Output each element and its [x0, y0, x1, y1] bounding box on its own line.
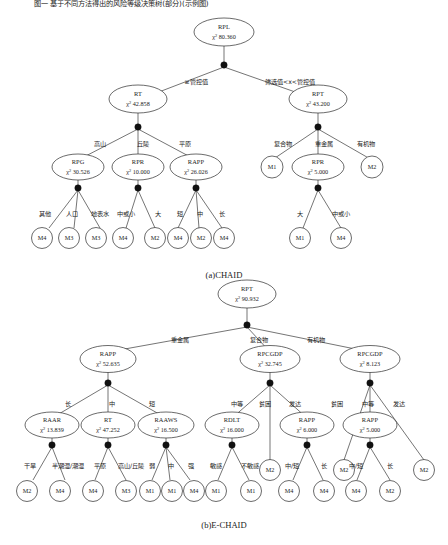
leaf-b-l5-label: M1 — [146, 487, 155, 494]
node-b-m2-c[interactable]: M2 — [414, 460, 435, 481]
leaf-b-l5[interactable]: M1 — [140, 481, 161, 502]
split-dot-b-rapp2[interactable] — [304, 442, 310, 448]
leaf-b-l10-label: M4 — [285, 487, 294, 494]
leaf-b-l7-label: M4 — [190, 487, 199, 494]
node-a-rpt[interactable]: RPT χ2 43.200 — [289, 85, 347, 113]
leaf-a-l2[interactable]: M3 — [59, 228, 80, 249]
node-b-raar[interactable]: RAAR χ2 13.839 — [25, 412, 79, 438]
leaf-a-l1[interactable]: M4 — [32, 228, 53, 249]
leaf-b-l6[interactable]: M1 — [162, 481, 183, 502]
split-dot-a-rapp[interactable] — [193, 185, 199, 191]
node-a-m2-right[interactable]: M2 — [361, 156, 383, 178]
node-a-m1-right[interactable]: M1 — [261, 156, 283, 178]
leaf-a-l9[interactable]: M1 — [290, 228, 311, 249]
leaf-a-l7[interactable]: M2 — [191, 228, 212, 249]
split-dot-a-rpg[interactable] — [75, 185, 81, 191]
leaf-b-l3[interactable]: M4 — [83, 481, 104, 502]
leaf-b-l3-label: M4 — [89, 487, 98, 494]
edge-label-b-e7: 干旱 — [24, 462, 36, 470]
leaf-b-l1[interactable]: M2 — [17, 481, 38, 502]
split-dot-b-rdlt[interactable] — [229, 442, 235, 448]
edge-label-a-e17: 大 — [297, 210, 303, 218]
node-a-rpt-label: RPT — [312, 90, 324, 97]
edge-label-a-e1: ≥管控值 — [184, 78, 207, 86]
split-dot-b-rt[interactable] — [105, 442, 111, 448]
leaf-b-l13[interactable]: M2 — [380, 481, 401, 502]
split-dot-b-rapp[interactable] — [105, 380, 111, 386]
split-dot-a-rpt[interactable] — [315, 124, 321, 130]
node-a-rt[interactable]: RT χ2 42.858 — [109, 85, 167, 113]
node-b-rapp3-label: RAPP — [362, 416, 379, 423]
leaf-b-l9[interactable]: M1 — [241, 481, 262, 502]
leaf-a-l6-label: M4 — [174, 234, 183, 241]
edge-label-a-e8: 地表水 — [91, 210, 110, 218]
decision-tree-figure: 图一 基于不同方法得出的风险等级决策树(部分)(示例图) — [0, 0, 448, 545]
split-dot-b-rpcgdp2[interactable] — [367, 380, 373, 386]
node-a-rapp-label: RAPP — [188, 158, 205, 165]
leaf-a-l7-label: M2 — [197, 234, 206, 241]
node-b-rpt[interactable]: RPT χ2 90.932 — [218, 280, 276, 308]
split-dot-b-rpcgdp1[interactable] — [267, 380, 273, 386]
node-a-m2-right-label: M2 — [368, 163, 377, 170]
node-b-rapp[interactable]: RAPP χ2 52.635 — [80, 346, 136, 373]
node-b-rdlt-label: RDLT — [224, 416, 241, 423]
node-a-rapp[interactable]: RAPP χ2 26.026 — [170, 154, 222, 180]
edge-label-b-e19: 中/短 — [285, 462, 299, 470]
leaf-a-l10-label: M4 — [337, 234, 346, 241]
node-a-rpr2[interactable]: RPR χ2 5.000 — [292, 154, 344, 180]
leaf-b-l4[interactable]: M3 — [116, 481, 137, 502]
node-b-rpcgdp1[interactable]: RPCGDP χ2 32.745 — [240, 346, 300, 373]
node-a-rpl[interactable]: RPL χ2 80.360 — [194, 18, 254, 46]
split-dot-a-rt[interactable] — [135, 124, 141, 130]
leaf-a-l10[interactable]: M4 — [331, 228, 352, 249]
leaf-a-l4[interactable]: M4 — [113, 228, 134, 249]
leaf-b-l8[interactable]: M1 — [206, 481, 227, 502]
split-dot-b-raaws[interactable] — [163, 442, 169, 448]
node-b-raaws[interactable]: RAAWS χ2 16.500 — [138, 412, 194, 438]
split-dot-b-raar[interactable] — [49, 442, 55, 448]
leaf-a-l5[interactable]: M2 — [145, 228, 166, 249]
leaf-b-l12[interactable]: M4 — [346, 481, 367, 502]
edge-label-b-e8: 半潮湿/潮湿 — [52, 462, 84, 470]
node-b-rt-label: RT — [104, 416, 112, 423]
edge-label-b-e22: 中等 — [362, 400, 374, 408]
tree-a-edges — [49, 46, 372, 228]
leaf-a-l8[interactable]: M4 — [214, 228, 235, 249]
leaf-b-l12-label: M4 — [352, 487, 361, 494]
leaf-a-l4-label: M4 — [119, 234, 128, 241]
node-b-rapp2[interactable]: RAPP χ2 6.000 — [280, 412, 334, 438]
split-dot-a-rpr2[interactable] — [315, 185, 321, 191]
edge-label-a-e6: 其他 — [39, 210, 51, 218]
edge-label-a-e7: 人口 — [66, 210, 78, 218]
split-dot-a-root[interactable] — [221, 62, 227, 68]
leaf-b-l11[interactable]: M4 — [314, 481, 335, 502]
leaf-b-l10[interactable]: M4 — [279, 481, 300, 502]
split-dot-a-rpr[interactable] — [135, 185, 141, 191]
edge-label-b-e4: 长 — [65, 400, 71, 408]
node-b-raar-label: RAAR — [43, 416, 62, 423]
leaf-a-l2-label: M3 — [65, 234, 74, 241]
leaf-a-l6[interactable]: M4 — [168, 228, 189, 249]
node-b-rapp3[interactable]: RAPP χ2 5.000 — [343, 412, 397, 438]
split-dot-b-rapp3[interactable] — [367, 442, 373, 448]
node-b-rdlt[interactable]: RDLT χ2 16.000 — [205, 412, 259, 438]
split-dot-b-root[interactable] — [244, 322, 250, 328]
edge-label-b-e6: 短 — [149, 400, 155, 408]
node-b-m2-a[interactable]: M2 — [260, 460, 281, 481]
leaf-b-l2[interactable]: M4 — [50, 481, 71, 502]
leaf-a-l3[interactable]: M3 — [86, 228, 107, 249]
edge-label-b-e13: 强 — [188, 462, 194, 470]
leaf-b-l7[interactable]: M4 — [184, 481, 205, 502]
node-b-m2-c-label: M2 — [420, 466, 429, 473]
figure-container: 图一 基于不同方法得出的风险等级决策树(部分)(示例图) — [0, 0, 448, 545]
node-b-rpcgdp2[interactable]: RPCGDP χ2 8.123 — [340, 346, 400, 373]
node-b-rpcgdp1-label: RPCGDP — [257, 350, 283, 357]
leaf-a-l5-label: M2 — [151, 234, 160, 241]
leaf-a-l8-label: M4 — [220, 234, 229, 241]
node-a-rt-label: RT — [134, 90, 142, 97]
node-b-rt[interactable]: RT χ2 47.252 — [81, 412, 135, 438]
node-a-rpl-label: RPL — [218, 23, 230, 30]
node-a-rpr[interactable]: RPR χ2 10.000 — [112, 154, 164, 180]
node-a-rpg[interactable]: RPG χ2 30.526 — [52, 154, 104, 180]
edge-label-a-e11: 短 — [177, 210, 183, 218]
